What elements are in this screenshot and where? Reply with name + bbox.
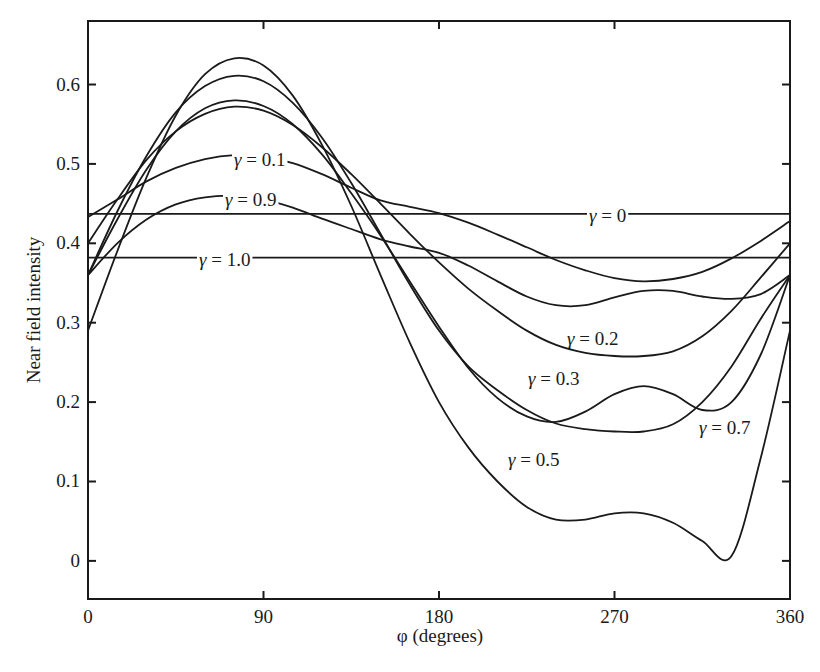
- curve-label: γ = 1.0: [199, 249, 250, 270]
- y-tick-label: 0.6: [56, 74, 80, 95]
- axes-box: [88, 21, 790, 599]
- plot-frame: [88, 21, 790, 599]
- x-tick-label: 360: [776, 606, 805, 627]
- y-tick-label: 0.4: [56, 232, 80, 253]
- y-axis-title: Near field intensity: [23, 236, 44, 383]
- curve-label: γ = 0: [589, 205, 626, 226]
- curves: [88, 58, 790, 561]
- curve-0-2: [88, 107, 790, 357]
- y-tick-label: 0.2: [56, 391, 80, 412]
- x-axis-ticks: 090180270360: [83, 21, 804, 627]
- curve-0-5: [88, 58, 790, 561]
- y-tick-label: 0.3: [56, 312, 80, 333]
- curve-label: γ = 0.3: [528, 368, 579, 389]
- y-axis-ticks: 00.10.20.30.40.50.6: [56, 74, 790, 571]
- chart-canvas: 090180270360 00.10.20.30.40.50.6 γ = 0.1…: [0, 0, 820, 672]
- near-field-intensity-chart: 090180270360 00.10.20.30.40.50.6 γ = 0.1…: [0, 0, 820, 672]
- curve-label: γ = 0.7: [699, 417, 750, 438]
- y-tick-label: 0: [71, 550, 81, 571]
- curve-label: γ = 0.9: [225, 189, 276, 210]
- curve-label: γ = 0.5: [508, 449, 559, 470]
- y-tick-label: 0.5: [56, 153, 80, 174]
- x-tick-label: 90: [254, 606, 273, 627]
- curve-0-7: [88, 76, 790, 433]
- y-tick-label: 0.1: [56, 470, 80, 491]
- curve-label: γ = 0.1: [234, 149, 285, 170]
- curve-labels: γ = 0.1γ = 0.9γ = 0γ = 1.0γ = 0.2γ = 0.3…: [197, 149, 752, 470]
- curve-label: γ = 0.2: [567, 328, 618, 349]
- x-tick-label: 270: [600, 606, 629, 627]
- x-tick-label: 0: [83, 606, 93, 627]
- x-axis-title: φ (degrees): [397, 625, 483, 647]
- x-tick-label: 180: [425, 606, 454, 627]
